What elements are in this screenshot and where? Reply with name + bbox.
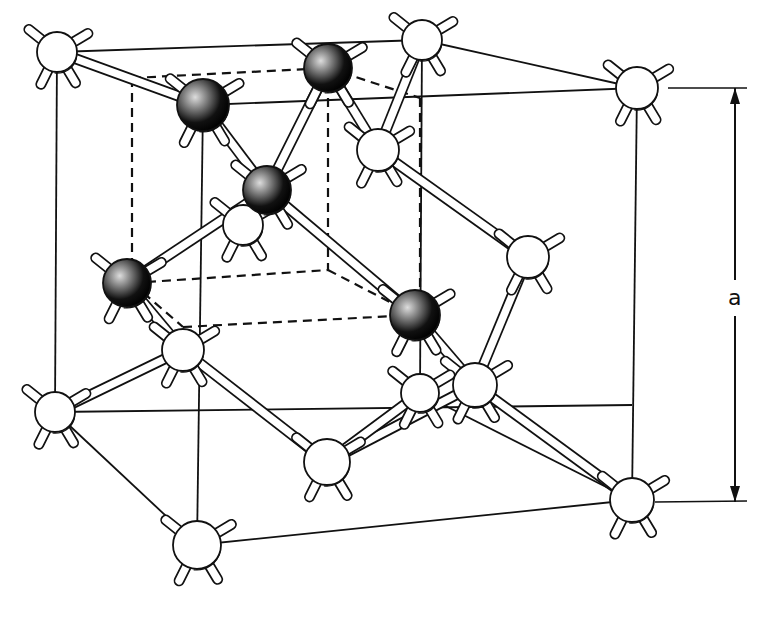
cell-edge bbox=[197, 500, 632, 545]
diamond-lattice-diagram: a bbox=[0, 0, 766, 619]
lattice-drawing bbox=[0, 0, 766, 619]
light-atom bbox=[610, 478, 654, 523]
atom-sphere bbox=[173, 521, 221, 569]
cell-edge bbox=[55, 405, 632, 412]
atom-sphere bbox=[616, 67, 658, 109]
atom-sphere bbox=[453, 363, 497, 407]
light-atom bbox=[357, 129, 399, 172]
dark-atom bbox=[304, 44, 352, 93]
atom-sphere bbox=[243, 166, 291, 214]
cell-edge bbox=[420, 393, 632, 500]
light-atom bbox=[37, 32, 77, 73]
light-atom bbox=[453, 363, 497, 408]
atom-sphere bbox=[390, 290, 440, 340]
cell-edge bbox=[55, 52, 57, 412]
dark-atom bbox=[243, 166, 291, 215]
atom-sphere bbox=[610, 478, 654, 522]
atom-sphere bbox=[304, 439, 350, 485]
light-atom bbox=[401, 374, 439, 413]
dashed-edge bbox=[132, 68, 328, 78]
dimension-tick-bottom bbox=[655, 501, 747, 502]
light-atom bbox=[35, 392, 75, 433]
atom-sphere bbox=[162, 329, 204, 371]
dark-atom bbox=[177, 79, 229, 132]
arrowhead-down bbox=[730, 486, 740, 502]
lattice-constant-label: a bbox=[728, 285, 741, 311]
light-atom bbox=[162, 329, 204, 372]
light-atom bbox=[304, 439, 350, 486]
atom-sphere bbox=[357, 129, 399, 171]
atom-sphere bbox=[507, 236, 549, 278]
atom-sphere bbox=[304, 44, 352, 92]
dashed-edge bbox=[132, 270, 328, 283]
light-atom bbox=[173, 521, 221, 570]
cell-edge bbox=[632, 88, 637, 500]
atom-sphere bbox=[401, 374, 439, 412]
dashed-edge bbox=[183, 315, 415, 327]
dark-atom bbox=[390, 290, 440, 341]
atom-sphere bbox=[177, 79, 229, 131]
atom-sphere bbox=[402, 20, 442, 60]
dark-atom bbox=[103, 259, 151, 308]
light-atom bbox=[616, 67, 658, 110]
arrowhead-up bbox=[730, 88, 740, 104]
atom-sphere bbox=[103, 259, 151, 307]
light-atom bbox=[507, 236, 549, 279]
light-atom bbox=[402, 20, 442, 61]
atom-sphere bbox=[35, 392, 75, 432]
atom-sphere bbox=[37, 32, 77, 72]
